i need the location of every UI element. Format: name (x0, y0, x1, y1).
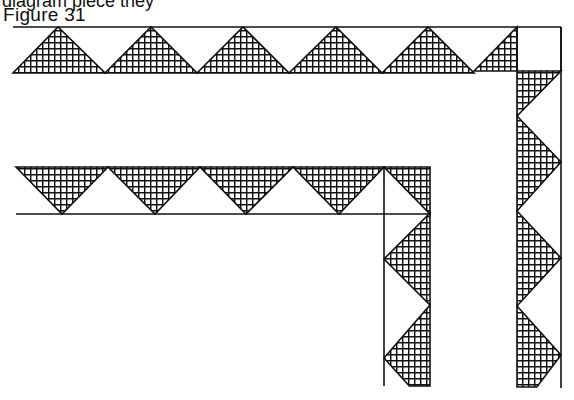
partial-triangle (517, 306, 561, 387)
right-sawtooth-column (517, 27, 561, 388)
right-pointing-triangle (517, 116, 561, 211)
down-triangle (200, 167, 293, 214)
half-triangle (474, 27, 517, 71)
right-pointing-triangle (517, 211, 561, 306)
up-triangle (197, 27, 289, 73)
up-triangle (13, 27, 105, 73)
lower-sawtooth-border (16, 167, 430, 214)
down-triangle (293, 167, 384, 214)
up-triangle (105, 27, 197, 73)
corner-triangle (384, 167, 430, 214)
down-triangle (108, 167, 200, 214)
up-triangle (289, 27, 382, 73)
top-sawtooth-border (13, 27, 561, 73)
left-pointing-triangle (384, 213, 430, 305)
sawtooth-border-diagram (0, 0, 574, 400)
partial-triangle (384, 305, 430, 386)
up-triangle (382, 27, 474, 73)
top-left-triangle (517, 71, 561, 116)
down-triangle (16, 167, 108, 214)
